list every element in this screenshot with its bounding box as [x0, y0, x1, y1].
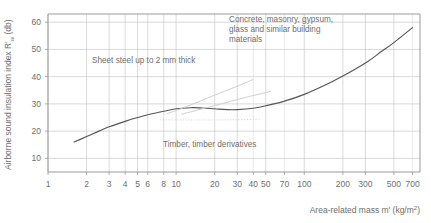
- x-tick-label: 50: [261, 179, 271, 189]
- x-tick-label: 700: [405, 179, 419, 189]
- x-tick-label: 5: [135, 179, 140, 189]
- x-tick-label: 300: [358, 179, 372, 189]
- x-axis-title: Area-related mass m' (kg/m2): [310, 205, 420, 215]
- timber-label: Timber, timber derivatives: [163, 140, 256, 149]
- x-tick-label: 500: [387, 179, 401, 189]
- timber-label-line: Timber, timber derivatives: [163, 140, 256, 149]
- x-tick-label: 70: [280, 179, 290, 189]
- sheet-steel-label: Sheet steel up to 2 mm thick: [92, 56, 196, 65]
- sheet-steel-label-line: Sheet steel up to 2 mm thick: [92, 56, 196, 65]
- x-tick-label: 100: [297, 179, 311, 189]
- x-tick-label: 4: [123, 179, 128, 189]
- concrete-masonry-label-line: materials: [229, 35, 262, 44]
- y-tick-label: 60: [32, 17, 42, 27]
- y-tick-label: 50: [32, 44, 42, 54]
- x-tick-label: 30: [233, 179, 243, 189]
- x-tick-label: 10: [171, 179, 181, 189]
- x-tick-label: 20: [210, 179, 220, 189]
- x-tick-label: 200: [336, 179, 350, 189]
- x-tick-label: 40: [249, 179, 259, 189]
- y-tick-label: 30: [32, 99, 42, 109]
- concrete-masonry-label-line: Concrete, masonry, gypsum,: [229, 15, 333, 24]
- x-tick-label: 3: [107, 179, 112, 189]
- chart-container: 102030405060 123456810203040507010020030…: [0, 0, 431, 223]
- airborne-sound-insulation-chart: 102030405060 123456810203040507010020030…: [0, 0, 431, 223]
- x-axis-title-text: Area-related mass m' (kg/m2): [310, 205, 420, 215]
- x-tick-label: 2: [84, 179, 89, 189]
- concrete-masonry-label-line: glass and similar building: [229, 25, 321, 34]
- chart-background: [0, 0, 431, 223]
- y-axis-title-text: Airborne sound insulation index R'w (db): [3, 19, 15, 170]
- y-tick-label: 10: [32, 153, 42, 163]
- x-tick-label: 1: [46, 179, 51, 189]
- y-tick-label: 40: [32, 72, 42, 82]
- y-axis-title: Airborne sound insulation index R'w (db): [3, 19, 15, 170]
- y-tick-label: 20: [32, 126, 42, 136]
- x-tick-label: 6: [145, 179, 150, 189]
- x-tick-label: 8: [161, 179, 166, 189]
